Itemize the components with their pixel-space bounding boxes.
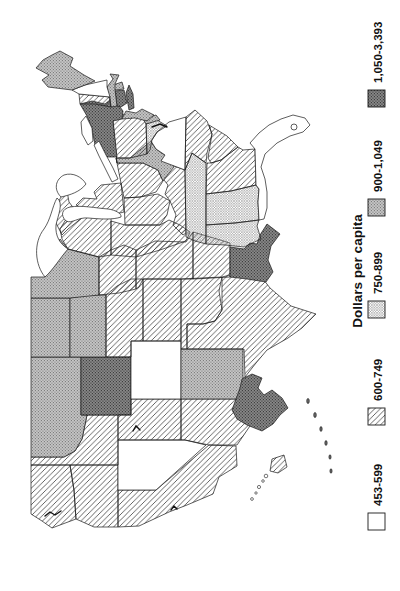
state-or [70, 465, 118, 527]
states-layer [31, 51, 316, 528]
state-in [124, 194, 170, 225]
state-wy [81, 357, 131, 415]
state-ny-long-island [126, 85, 134, 110]
hawaiian-island [262, 480, 265, 483]
lake-okeechobee [291, 124, 297, 130]
legend-swatch-750-899 [368, 301, 385, 318]
state-fl [250, 115, 310, 220]
lake-huron [56, 174, 86, 197]
hawaiian-island [257, 485, 260, 488]
hawaiian-island [255, 492, 257, 494]
legend-label-900-1049: 900-1,049 [372, 140, 384, 192]
legend-title: Dollars per capita [350, 214, 365, 328]
state-sd [70, 295, 106, 357]
aleutian-island [320, 427, 322, 432]
legend-label-453-599: 453-599 [372, 464, 384, 506]
aleutian-island [314, 412, 317, 417]
state-nm [181, 349, 247, 399]
legend-label-750-899: 750-899 [372, 252, 384, 294]
aleutian-island [325, 441, 327, 446]
state-mt [31, 357, 87, 457]
state-hi-big-island [270, 455, 287, 473]
legend-label-600-749: 600-749 [372, 359, 384, 401]
hawaiian-island [251, 498, 254, 501]
rotated-figure: Dollars per capita 453-599 600-749 750-8… [0, 0, 400, 591]
state-wa [31, 465, 76, 528]
state-nd [31, 298, 70, 357]
aleutian-island [329, 455, 331, 459]
legend-swatch-1050-3393 [368, 90, 385, 107]
figure-page: Dollars per capita 453-599 600-749 750-8… [0, 0, 400, 591]
legend-label-1050-3393: 1,050-3,393 [372, 22, 384, 83]
legend-swatch-900-1049 [368, 199, 385, 216]
state-tn [185, 153, 206, 244]
aleutian-island [330, 469, 332, 473]
aleutian-island [307, 398, 310, 403]
state-co [131, 341, 181, 399]
state-ks [143, 279, 181, 341]
legend-swatch-453-599 [368, 513, 385, 530]
state-me [36, 51, 95, 90]
legend-swatch-600-749 [368, 408, 385, 425]
hawaiian-island [264, 474, 268, 478]
us-choropleth-map: Dollars per capita 453-599 600-749 750-8… [0, 0, 400, 591]
legend: Dollars per capita 453-599 600-749 750-8… [350, 22, 385, 530]
